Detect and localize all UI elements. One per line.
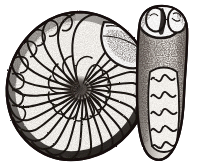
engraving-canvas	[0, 0, 197, 166]
fossil-plate	[0, 0, 197, 166]
